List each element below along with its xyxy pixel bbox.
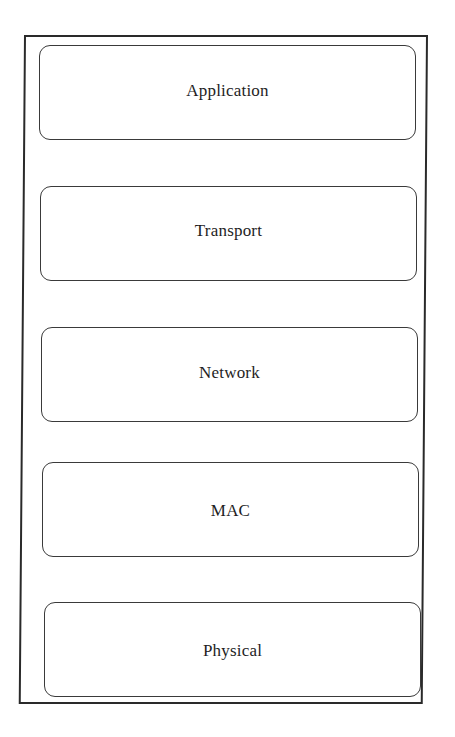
layer-physical: Physical [44, 602, 421, 697]
layer-transport: Transport [40, 186, 417, 281]
layer-label: Application [186, 81, 268, 101]
layer-label: Transport [195, 221, 262, 241]
layer-network: Network [41, 327, 418, 422]
layer-label: MAC [211, 501, 250, 521]
layer-label: Network [199, 363, 260, 383]
layer-label: Physical [203, 641, 262, 661]
layer-application: Application [39, 45, 416, 140]
layer-mac: MAC [42, 462, 419, 557]
